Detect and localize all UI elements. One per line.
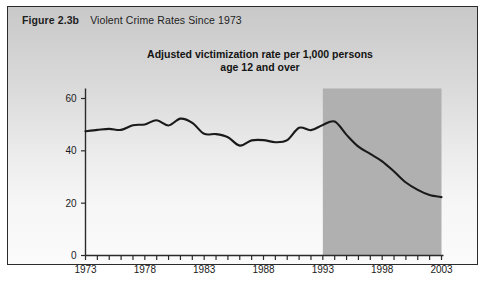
- x-axis-tick-labels: 1973197819831988199319982003: [74, 264, 453, 275]
- line-chart-svg: 0204060 1973197819831988199319982003: [0, 0, 492, 283]
- plot-area: 0204060 1973197819831988199319982003: [0, 0, 492, 283]
- x-tick-label: 2003: [430, 264, 453, 275]
- y-tick-label: 20: [65, 198, 77, 209]
- x-tick-label: 1973: [74, 264, 97, 275]
- x-tick-label: 1993: [312, 264, 335, 275]
- y-tick-label: 40: [65, 145, 77, 156]
- redesign-period-shading: [323, 89, 442, 256]
- y-axis-tick-labels: 0204060: [65, 93, 77, 261]
- x-tick-label: 1983: [193, 264, 216, 275]
- figure-screenshot: Figure 2.3bViolent Crime Rates Since 197…: [0, 0, 492, 283]
- x-tick-label: 1988: [252, 264, 275, 275]
- x-tick-label: 1978: [134, 264, 157, 275]
- y-tick-label: 0: [71, 250, 77, 261]
- y-tick-label: 60: [65, 93, 77, 104]
- x-tick-label: 1998: [371, 264, 394, 275]
